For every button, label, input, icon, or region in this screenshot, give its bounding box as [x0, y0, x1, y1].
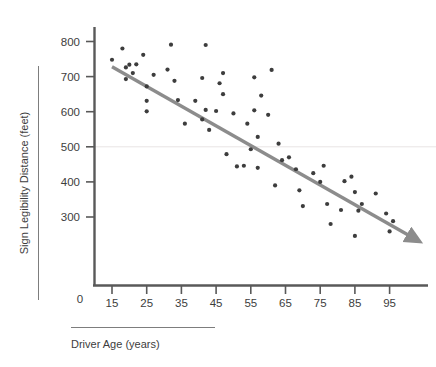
data-point	[353, 190, 357, 194]
data-point	[318, 180, 322, 184]
data-point	[287, 155, 291, 159]
data-point	[242, 164, 246, 168]
data-point	[325, 202, 329, 206]
origin-label: 0	[77, 293, 83, 305]
data-point	[231, 111, 235, 115]
data-point	[252, 108, 256, 112]
data-point	[374, 191, 378, 195]
data-point	[280, 158, 284, 162]
data-point	[297, 188, 301, 192]
x-tick-label-45: 45	[210, 297, 223, 309]
data-point	[256, 135, 260, 139]
data-point	[384, 211, 388, 215]
data-point	[322, 164, 326, 168]
data-point	[249, 147, 253, 151]
data-point	[145, 99, 149, 103]
data-point	[252, 75, 256, 79]
data-point	[294, 167, 298, 171]
data-point	[110, 58, 114, 62]
data-point	[259, 93, 263, 97]
data-point	[356, 209, 360, 213]
data-point	[276, 142, 280, 146]
data-point	[245, 122, 249, 126]
data-point	[270, 68, 274, 72]
data-point	[273, 183, 277, 187]
data-point	[200, 76, 204, 80]
x-tick-label-35: 35	[175, 297, 188, 309]
data-point	[360, 202, 364, 206]
data-point	[342, 179, 346, 183]
data-point	[152, 73, 156, 77]
data-point	[301, 204, 305, 208]
y-tick-label-700: 700	[61, 71, 80, 83]
y-tick-label-500: 500	[61, 141, 80, 153]
y-axis-title: Sign Legibility Distance (feet)	[18, 112, 30, 254]
data-point	[311, 171, 315, 175]
data-point	[141, 53, 145, 57]
data-point	[124, 65, 128, 69]
data-point	[388, 229, 392, 233]
scatter-chart: 300400500600700800 152535455565758595 0 …	[0, 0, 436, 367]
data-point	[131, 71, 135, 75]
x-tick-group	[112, 286, 390, 295]
data-point	[349, 175, 353, 179]
y-tick-label-300: 300	[61, 211, 80, 223]
x-axis-title: Driver Age (years)	[71, 338, 160, 350]
x-tick-label-group: 152535455565758595	[106, 297, 396, 309]
x-tick-label-95: 95	[383, 297, 396, 309]
data-point	[204, 43, 208, 47]
data-point	[120, 46, 124, 50]
data-point	[235, 164, 239, 168]
data-point	[214, 109, 218, 113]
data-point	[200, 117, 204, 121]
data-point	[391, 219, 395, 223]
data-point	[169, 43, 173, 47]
data-point	[266, 113, 270, 117]
data-point	[145, 84, 149, 88]
x-tick-label-85: 85	[349, 297, 362, 309]
data-point	[207, 128, 211, 132]
x-tick-label-15: 15	[106, 297, 119, 309]
y-tick-label-group: 300400500600700800	[61, 36, 80, 224]
data-point	[256, 166, 260, 170]
chart-canvas: 300400500600700800 152535455565758595 0 …	[0, 0, 436, 367]
data-point	[127, 63, 131, 67]
trendline-arrow	[112, 67, 410, 237]
data-point	[329, 222, 333, 226]
data-point	[217, 81, 221, 85]
data-point	[134, 62, 138, 66]
data-point	[221, 71, 225, 75]
data-point	[124, 77, 128, 81]
data-point	[193, 99, 197, 103]
data-point	[353, 234, 357, 238]
y-tick-label-400: 400	[61, 176, 80, 188]
data-point	[165, 67, 169, 71]
data-point	[224, 152, 228, 156]
data-point	[145, 109, 149, 113]
data-point	[183, 122, 187, 126]
data-point	[172, 79, 176, 83]
data-point-group	[110, 43, 395, 238]
x-tick-label-75: 75	[314, 297, 327, 309]
data-point	[204, 108, 208, 112]
x-tick-label-65: 65	[279, 297, 292, 309]
data-point	[176, 98, 180, 102]
y-tick-label-800: 800	[61, 36, 80, 48]
x-tick-label-25: 25	[140, 297, 153, 309]
data-point	[339, 208, 343, 212]
y-tick-group	[86, 42, 95, 218]
y-tick-label-600: 600	[61, 106, 80, 118]
x-tick-label-55: 55	[244, 297, 257, 309]
data-point	[221, 92, 225, 96]
